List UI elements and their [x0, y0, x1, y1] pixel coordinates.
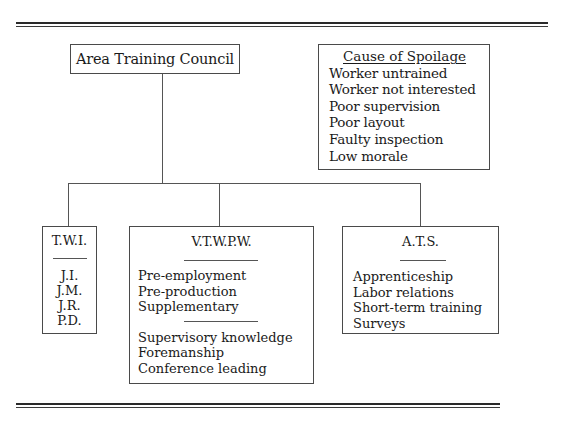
root-node-area-training-council: Area Training Council	[70, 44, 240, 74]
bottom-rule-thin-line	[16, 407, 500, 408]
branch-item: Labor relations	[343, 285, 498, 301]
branch-item: J.M.	[43, 283, 96, 298]
branch-node-vtwpw: V.T.W.P.W. Pre-employment Pre-production…	[129, 226, 314, 384]
branch-connector-vtwpw	[219, 183, 220, 226]
branch-connector-twi	[68, 183, 69, 226]
branch-title-ats: A.T.S.	[343, 234, 498, 250]
branch-node-twi: T.W.I. J.I. J.M. J.R. P.D.	[42, 226, 97, 334]
spoilage-cause-item: Low morale	[329, 148, 489, 165]
branch-item: Short-term training	[343, 300, 498, 316]
branch-item: Supervisory knowledge	[130, 330, 313, 346]
branch-item: Conference leading	[130, 361, 313, 377]
branch-item: Pre-employment	[130, 268, 313, 284]
cause-of-spoilage-title: Cause of Spoilage	[343, 48, 466, 65]
root-connector-vertical	[162, 74, 163, 184]
branch-divider	[184, 260, 258, 261]
branch-title-twi: T.W.I.	[43, 233, 96, 249]
root-node-label: Area Training Council	[76, 51, 234, 67]
spoilage-cause-item: Poor layout	[329, 114, 489, 131]
spoilage-cause-item: Faulty inspection	[329, 131, 489, 148]
branch-item: Pre-production	[130, 284, 313, 300]
branch-connector-horizontal	[68, 183, 421, 184]
branch-divider	[400, 260, 446, 261]
branch-node-ats: A.T.S. Apprenticeship Labor relations Sh…	[342, 226, 499, 334]
branch-title-vtwpw: V.T.W.P.W.	[130, 234, 313, 250]
branch-item: P.D.	[43, 313, 96, 328]
branch-item: Surveys	[343, 316, 498, 332]
branch-group-divider	[184, 321, 258, 322]
spoilage-cause-item: Poor supervision	[329, 98, 489, 115]
bottom-rule-thick-line	[16, 403, 500, 405]
cause-of-spoilage-box: Cause of Spoilage Worker untrained Worke…	[318, 44, 490, 170]
top-rule-thin-line	[16, 26, 548, 27]
branch-connector-ats	[420, 183, 421, 226]
branch-item: Foremanship	[130, 345, 313, 361]
branch-item: Supplementary	[130, 299, 313, 315]
top-rule-thick-line	[16, 22, 548, 24]
spoilage-cause-item: Worker untrained	[329, 65, 489, 82]
spoilage-cause-item: Worker not interested	[329, 81, 489, 98]
branch-item: J.R.	[43, 298, 96, 313]
branch-item: Apprenticeship	[343, 269, 498, 285]
branch-item: J.I.	[43, 268, 96, 283]
branch-divider	[53, 258, 87, 259]
